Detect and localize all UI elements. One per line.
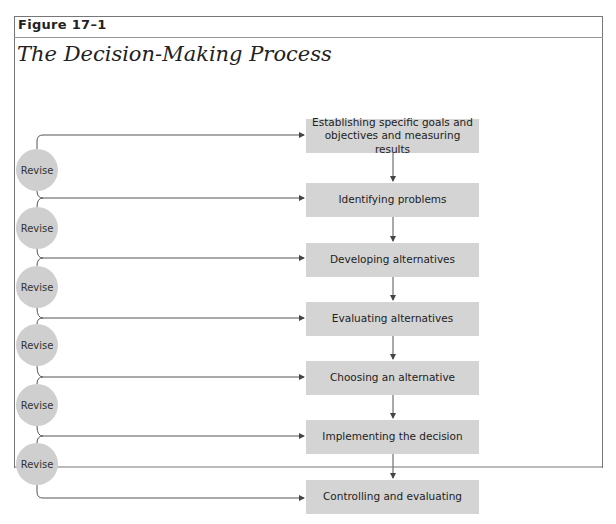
- step-label: Developing alternatives: [330, 253, 455, 266]
- step-box-choosing: Choosing an alternative: [306, 361, 479, 395]
- step-label: Establishing specific goals and objectiv…: [306, 116, 479, 155]
- revise-node: Revise: [16, 384, 58, 426]
- step-label: Identifying problems: [338, 193, 446, 206]
- revise-node: Revise: [16, 149, 58, 191]
- revise-node: Revise: [16, 266, 58, 308]
- revise-node: Revise: [16, 443, 58, 485]
- step-box-goals: Establishing specific goals and objectiv…: [306, 119, 479, 153]
- revise-node: Revise: [16, 207, 58, 249]
- revise-node: Revise: [16, 324, 58, 366]
- step-label: Implementing the decision: [322, 430, 462, 443]
- step-box-identifying: Identifying problems: [306, 183, 479, 217]
- step-label: Evaluating alternatives: [332, 312, 453, 325]
- step-box-evaluating: Evaluating alternatives: [306, 302, 479, 336]
- step-box-controlling: Controlling and evaluating: [306, 480, 479, 514]
- step-box-implementing: Implementing the decision: [306, 420, 479, 454]
- step-label: Controlling and evaluating: [323, 490, 462, 503]
- step-box-developing: Developing alternatives: [306, 243, 479, 277]
- step-label: Choosing an alternative: [330, 371, 455, 384]
